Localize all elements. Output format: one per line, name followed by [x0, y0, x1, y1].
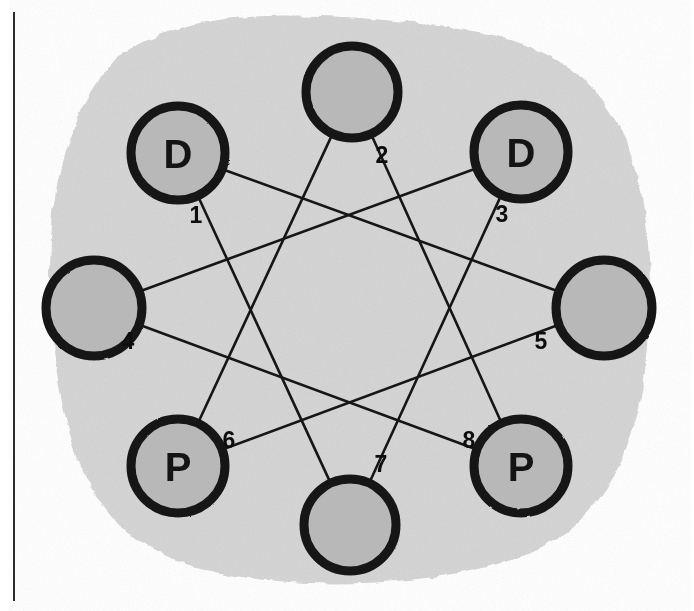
- node-index-label-2: 2: [376, 142, 389, 168]
- node-letter-8: P: [508, 445, 535, 489]
- figure-root: DDPP 12345678: [0, 0, 694, 611]
- node-index-label-8: 8: [463, 427, 476, 453]
- node-8[interactable]: P: [474, 419, 568, 513]
- node-index-label-6: 6: [223, 427, 236, 453]
- node-2[interactable]: [306, 46, 398, 138]
- node-index-label-3: 3: [496, 201, 509, 227]
- node-letter-6: P: [165, 445, 192, 489]
- node-index-label-1: 1: [190, 202, 203, 228]
- node-5[interactable]: [556, 260, 652, 356]
- node-letter-3: D: [507, 131, 536, 175]
- node-3[interactable]: D: [474, 105, 568, 199]
- node-index-label-4: 4: [122, 328, 135, 354]
- node-circle-5[interactable]: [556, 260, 652, 356]
- node-circle-2[interactable]: [306, 46, 398, 138]
- node-letter-1: D: [164, 132, 193, 176]
- node-network-diagram: DDPP 12345678: [0, 0, 694, 611]
- node-index-label-7: 7: [375, 451, 388, 477]
- node-6[interactable]: P: [131, 419, 225, 513]
- node-1[interactable]: D: [131, 106, 225, 200]
- node-7[interactable]: [304, 479, 396, 571]
- node-circle-7[interactable]: [304, 479, 396, 571]
- node-index-label-5: 5: [535, 328, 548, 354]
